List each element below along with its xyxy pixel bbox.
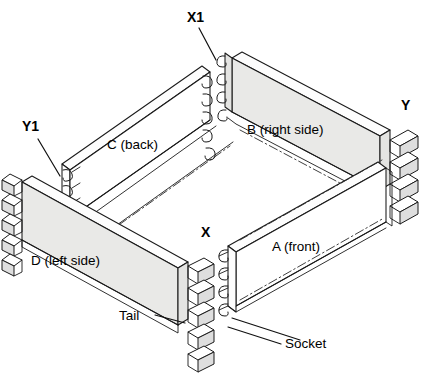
corner-label-y1-group: Y1 (22, 118, 60, 176)
callout-socket-label: Socket (285, 336, 327, 351)
panel-d-right-tails (188, 258, 214, 372)
panel-a-left-end-band (228, 246, 236, 312)
callout-socket-group: Socket (228, 318, 327, 351)
callout-tail-label: Tail (119, 308, 139, 323)
corner-label-x1-group: X1 (187, 9, 216, 60)
panel-b-label: B (right side) (247, 122, 324, 137)
corner-label-x1-leader (199, 28, 216, 60)
corner-label-x1: X1 (187, 9, 204, 25)
callout-socket-leader (228, 327, 281, 344)
dovetail-diagram-root: C (back) (0, 0, 432, 385)
dovetail-assembly-illustration: C (back) (0, 0, 432, 385)
callout-socket-leader-cross (232, 318, 300, 340)
panel-d-right-end-band (178, 262, 188, 325)
corner-label-y: Y (401, 97, 411, 113)
corner-label-y1-leader (38, 139, 60, 176)
corner-label-x: X (201, 224, 211, 240)
corner-label-x-group: X (201, 224, 211, 240)
panel-d-left-tails (2, 174, 22, 276)
corner-label-y-group: Y (401, 97, 411, 113)
panel-b-right-tails (390, 130, 418, 224)
panel-a-label: A (front) (272, 239, 320, 254)
panel-d-label: D (left side) (31, 253, 100, 268)
panel-a-front: A (front) (219, 160, 392, 316)
panel-c-label: C (back) (107, 137, 158, 152)
panel-a-left-sockets (219, 250, 228, 316)
corner-label-y1: Y1 (22, 118, 39, 134)
